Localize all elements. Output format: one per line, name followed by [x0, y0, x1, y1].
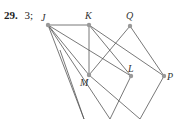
- vertex-l: [129, 74, 133, 78]
- graph-edge: [140, 76, 164, 119]
- vertex-k: [87, 23, 91, 27]
- vertex-label-l: L: [127, 63, 134, 74]
- graph-edge: [48, 25, 89, 75]
- graph-diagram: JKQMLP: [0, 0, 176, 119]
- graph-edge: [110, 76, 131, 119]
- vertex-label-p: P: [166, 71, 173, 82]
- graph-edge: [89, 75, 140, 119]
- vertex-label-k: K: [84, 10, 93, 21]
- vertex-j: [46, 23, 50, 27]
- vertex-q: [128, 24, 132, 28]
- vertex-label-j: J: [41, 12, 46, 23]
- graph-edge: [89, 25, 164, 76]
- vertex-p: [162, 74, 166, 78]
- vertex-label-q: Q: [126, 10, 134, 21]
- graph-edge: [130, 26, 164, 76]
- vertex-label-m: M: [79, 77, 89, 88]
